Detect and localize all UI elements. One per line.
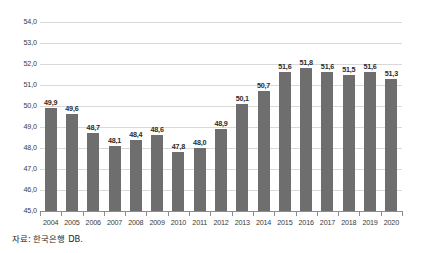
- y-axis-tick-label: 51,0: [3, 81, 37, 89]
- bar-value-label: 48,1: [108, 137, 121, 145]
- bar: [172, 152, 184, 211]
- x-axis-tick-label: 2012: [210, 218, 231, 227]
- x-axis-tick-label: 2009: [146, 218, 167, 227]
- y-axis-tick-label: 53,0: [3, 39, 37, 47]
- y-axis-tick-label: 49,0: [3, 123, 37, 131]
- bar-slot: 49,9: [40, 22, 61, 211]
- bar-value-label: 49,6: [65, 105, 78, 113]
- y-axis-tick-label: 50,0: [3, 102, 37, 110]
- x-axis-tick: [210, 211, 211, 216]
- x-axis-tick-label: 2013: [232, 218, 253, 227]
- x-axis-tick: [253, 211, 254, 216]
- bar-slot: 51,5: [338, 22, 359, 211]
- x-axis-tick: [317, 211, 318, 216]
- bar-slot: 48,7: [83, 22, 104, 211]
- bar-slot: 51,6: [359, 22, 380, 211]
- bar-value-label: 51,6: [321, 63, 334, 71]
- y-axis-tick-label: 45,0: [3, 207, 37, 215]
- y-axis-tick-label: 54,0: [3, 18, 37, 26]
- y-axis-tick-label: 52,0: [3, 60, 37, 68]
- x-axis-tick: [381, 211, 382, 216]
- bar: [258, 91, 270, 211]
- x-axis-tick: [359, 211, 360, 216]
- bar-value-label: 51,5: [342, 66, 355, 74]
- bar-slot: 51,3: [381, 22, 402, 211]
- x-axis-tick: [338, 211, 339, 216]
- x-axis-tick: [168, 211, 169, 216]
- bar: [321, 72, 333, 211]
- bar-slot: 49,6: [61, 22, 82, 211]
- bar: [215, 129, 227, 211]
- bar-value-label: 51,6: [363, 63, 376, 71]
- x-axis-tick-label: 2017: [317, 218, 338, 227]
- bar: [236, 104, 248, 211]
- x-axis-tick-label: 2019: [359, 218, 380, 227]
- x-axis-tick: [61, 211, 62, 216]
- bar: [343, 75, 355, 212]
- x-axis-tick: [40, 211, 41, 216]
- bar: [45, 108, 57, 211]
- bar-value-label: 48,9: [214, 120, 227, 128]
- x-axis-tick: [232, 211, 233, 216]
- bar: [194, 148, 206, 211]
- bar-slot: 48,0: [189, 22, 210, 211]
- y-axis: 54,053,052,051,050,049,048,047,046,045,0: [0, 22, 37, 211]
- bar: [151, 135, 163, 211]
- bar-value-label: 51,3: [385, 70, 398, 78]
- x-axis-tick-label: 2016: [296, 218, 317, 227]
- x-axis-tick: [189, 211, 190, 216]
- bar-value-label: 51,6: [278, 63, 291, 71]
- bar-value-label: 48,0: [193, 139, 206, 147]
- bar-slot: 50,7: [253, 22, 274, 211]
- bar-slot: 51,8: [296, 22, 317, 211]
- bar: [364, 72, 376, 211]
- bar-value-label: 47,8: [172, 143, 185, 151]
- bar-series: 49,949,648,748,148,448,647,848,048,950,1…: [40, 22, 402, 211]
- x-axis-tick-label: 2008: [125, 218, 146, 227]
- x-axis-tick-label: 2015: [274, 218, 295, 227]
- x-axis-tick: [104, 211, 105, 216]
- bar-slot: 48,9: [210, 22, 231, 211]
- x-axis-tick-label: 2007: [104, 218, 125, 227]
- bar: [66, 114, 78, 211]
- x-axis-tick-label: 2018: [338, 218, 359, 227]
- bar-slot: 48,4: [125, 22, 146, 211]
- bar: [385, 79, 397, 211]
- bar-slot: 51,6: [274, 22, 295, 211]
- x-axis-tick-label: 2020: [381, 218, 402, 227]
- bar-value-label: 48,7: [87, 124, 100, 132]
- bar-slot: 48,1: [104, 22, 125, 211]
- bar: [130, 140, 142, 211]
- x-axis-tick-label: 2010: [168, 218, 189, 227]
- bar-slot: 50,1: [232, 22, 253, 211]
- bar-value-label: 48,6: [151, 126, 164, 134]
- bar-slot: 47,8: [168, 22, 189, 211]
- source-note: 자료: 한국은행 DB.: [12, 234, 83, 245]
- x-axis-tick: [125, 211, 126, 216]
- x-axis-tick: [146, 211, 147, 216]
- x-axis-tick: [83, 211, 84, 216]
- y-axis-tick-label: 46,0: [3, 186, 37, 194]
- bar: [300, 68, 312, 211]
- bar-value-label: 51,8: [300, 59, 313, 67]
- x-axis: 2004200520062007200820092010201120122013…: [40, 211, 402, 235]
- x-axis-tick: [274, 211, 275, 216]
- x-axis-tick: [296, 211, 297, 216]
- x-axis-tick-label: 2006: [83, 218, 104, 227]
- bar-value-label: 49,9: [44, 99, 57, 107]
- bar: [279, 72, 291, 211]
- x-axis-tick-label: 2004: [40, 218, 61, 227]
- x-axis-tick-label: 2014: [253, 218, 274, 227]
- x-axis-tick: [402, 211, 403, 216]
- bar-value-label: 48,4: [129, 131, 142, 139]
- x-axis-tick-label: 2005: [61, 218, 82, 227]
- y-axis-tick-label: 48,0: [3, 144, 37, 152]
- x-axis-tick-label: 2011: [189, 218, 210, 227]
- bar-value-label: 50,1: [236, 95, 249, 103]
- bar-chart-figure: 54,053,052,051,050,049,048,047,046,045,0…: [0, 0, 428, 253]
- bar: [87, 133, 99, 211]
- bar-value-label: 50,7: [257, 82, 270, 90]
- bar: [109, 146, 121, 211]
- bar-slot: 51,6: [317, 22, 338, 211]
- bar-slot: 48,6: [146, 22, 167, 211]
